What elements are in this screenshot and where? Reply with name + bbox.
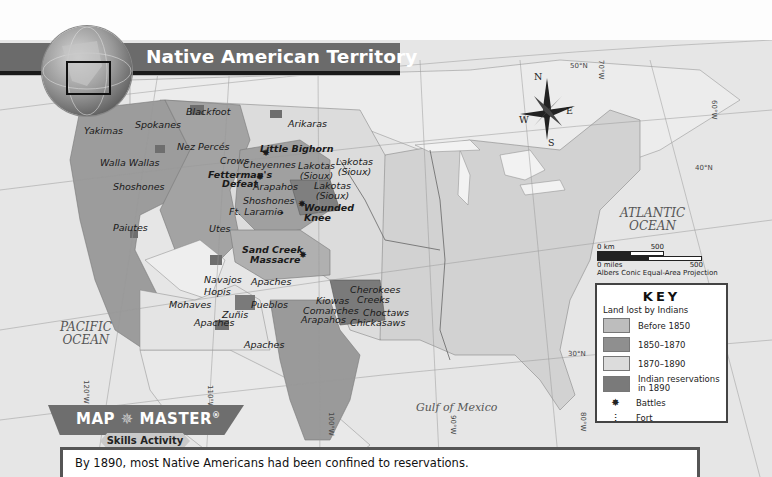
map-master-word2: MASTER — [140, 410, 212, 428]
tribe-utes: Utes — [209, 224, 230, 234]
tribe-arapahos-2: Arapahos — [301, 315, 346, 325]
key-label: Fort — [636, 413, 653, 423]
lat-30: 30°N — [568, 350, 586, 358]
tribe-creeks: Creeks — [357, 295, 390, 305]
swatch-reservations — [603, 376, 630, 392]
map-scale: 0 km 500 0 miles 500 Albers Conic Equal-… — [597, 243, 767, 277]
projection-label: Albers Conic Equal-Area Projection — [597, 269, 767, 277]
tribe-nez-perces: Nez Percés — [177, 142, 229, 152]
locator-frame — [66, 61, 111, 95]
battle-icon: ✸ — [603, 397, 628, 408]
tribe-lakotas-1: Lakotas (Sioux) — [298, 161, 335, 181]
map-key: KEY Land lost by Indians Before 1850 185… — [595, 283, 728, 423]
key-label: 1850–1870 — [638, 340, 686, 350]
scale-mi-start: 0 miles — [597, 261, 622, 269]
map-master-word1: MAP — [76, 410, 115, 428]
map-title: Native American Territory — [146, 46, 417, 67]
lat-50: 50°N — [570, 62, 588, 70]
top-margin — [0, 0, 772, 40]
pacific-ocean-label: PACIFIC OCEAN — [60, 321, 112, 347]
scale-km-end: 500 — [651, 243, 664, 251]
tribe-lakotas-3: Lakotas (Sioux) — [314, 181, 351, 201]
lon-90: 90°W — [449, 415, 457, 434]
tribe-pueblos: Pueblos — [251, 300, 288, 310]
tribe-blackfoot: Blackfoot — [186, 107, 230, 117]
compass-star-icon: ✵ — [121, 410, 134, 428]
lakotas-3-sioux: (Sioux) — [314, 191, 351, 201]
tribe-spokanes: Spokanes — [135, 120, 181, 130]
tribe-shoshones-1: Shoshones — [113, 182, 164, 192]
key-label: Before 1850 — [638, 321, 690, 331]
lon-60: 60°W — [710, 100, 718, 119]
swatch-1870-1890 — [603, 356, 630, 371]
key-subtitle: Land lost by Indians — [603, 305, 720, 315]
lon-100: 100°W — [327, 412, 335, 436]
key-title: KEY — [603, 289, 720, 304]
lon-70: 70°W — [597, 60, 605, 79]
tribe-paiutes: Paiutes — [113, 223, 148, 233]
swatch-before-1850 — [603, 318, 630, 333]
event-fetterman-2: Defeat — [222, 179, 258, 189]
swatch-1850-1870 — [603, 337, 630, 352]
key-row-battles: ✸ Battles — [603, 397, 720, 408]
lakotas-2-sioux: (Sioux) — [336, 167, 373, 177]
map-page: Native American Territory N S E W 50°N 7… — [0, 0, 772, 477]
lon-80: 80°W — [579, 412, 587, 431]
tribe-navajos: Navajos — [204, 275, 242, 285]
compass-e: E — [566, 106, 573, 116]
pacific-line2: OCEAN — [60, 334, 112, 347]
fort-icon: ⵗ — [603, 412, 628, 423]
tribe-apaches-3: Apaches — [244, 340, 284, 350]
compass-n: N — [534, 72, 542, 82]
compass-w: W — [519, 115, 529, 125]
scale-km-start: 0 km — [597, 243, 615, 251]
key-label: 1870–1890 — [638, 359, 686, 369]
tribe-arikaras: Arikaras — [288, 119, 327, 129]
scale-mi-end: 500 — [690, 261, 703, 269]
lon-120: 120°W — [82, 380, 90, 404]
tribe-lakotas-2: Lakotas (Sioux) — [336, 157, 373, 177]
fort-icon: • — [279, 208, 285, 218]
event-little-bighorn: Little Bighorn — [260, 144, 333, 154]
tribe-mohaves: Mohaves — [169, 300, 211, 310]
fort-laramie-label: Ft. Laramie — [229, 207, 283, 217]
event-wounded-knee-2: Knee — [304, 213, 331, 223]
battle-icon: ✸ — [298, 199, 306, 209]
tribe-shoshones-2: Shoshones — [243, 196, 294, 206]
tribe-arapahos-1: Arapahos — [253, 182, 298, 192]
event-sand-creek-2: Massacre — [250, 255, 300, 265]
compass-s: S — [548, 138, 555, 148]
map-master-title: MAP ✵ MASTER® — [76, 410, 220, 428]
tribe-hopis: Hopis — [204, 287, 231, 297]
key-label: Indian reservations in 1890 — [638, 375, 720, 393]
battle-icon: ✸ — [256, 172, 264, 182]
gulf-of-mexico-label: Gulf of Mexico — [416, 401, 497, 414]
battle-icon: ✸ — [262, 148, 270, 158]
atlantic-ocean-label: ATLANTIC OCEAN — [620, 207, 685, 233]
tribe-walla-wallas: Walla Wallas — [100, 158, 160, 168]
key-row-before-1850: Before 1850 — [603, 318, 720, 333]
atlantic-line2: OCEAN — [620, 220, 685, 233]
registered-mark: ® — [212, 411, 221, 420]
battle-icon: ✸ — [299, 250, 307, 260]
key-row-1850-1870: 1850–1870 — [603, 337, 720, 352]
tribe-apaches-2: Apaches — [194, 318, 234, 328]
lat-40: 40°N — [695, 164, 713, 172]
key-row-reservations: Indian reservations in 1890 — [603, 375, 720, 393]
key-row-fort: ⵗ Fort — [603, 412, 720, 423]
key-label: Battles — [636, 398, 666, 408]
caption-box: By 1890, most Native Americans had been … — [60, 447, 700, 477]
tribe-chickasaws: Chickasaws — [350, 318, 405, 328]
tribe-apaches-1: Apaches — [251, 277, 291, 287]
tribe-yakimas: Yakimas — [84, 126, 123, 136]
key-row-1870-1890: 1870–1890 — [603, 356, 720, 371]
